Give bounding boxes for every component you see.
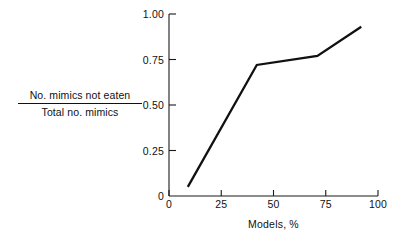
x-tick-label-0: 0 xyxy=(166,198,172,210)
y-tick-label-0: 0 xyxy=(158,190,164,202)
x-tick-label-4: 100 xyxy=(369,198,387,210)
y-tick-label-4: 1.00 xyxy=(143,8,164,20)
x-tick-label-2: 50 xyxy=(267,198,279,210)
y-axis-ticks xyxy=(169,14,176,151)
y-axis-tick-labels: 1.00 0.75 0.50 0.25 0 xyxy=(143,8,164,202)
x-axis-tick-labels: 0 25 50 75 100 xyxy=(166,198,387,210)
data-series-line xyxy=(188,27,361,187)
x-axis-ticks xyxy=(169,190,378,196)
y-tick-label-1: 0.25 xyxy=(143,145,164,157)
plot-area: 1.00 0.75 0.50 0.25 0 0 25 50 75 100 Mod… xyxy=(0,0,403,241)
x-tick-label-1: 25 xyxy=(215,198,227,210)
y-tick-label-2: 0.50 xyxy=(143,99,164,111)
y-tick-label-3: 0.75 xyxy=(143,54,164,66)
chart-figure: No. mimics not eaten Total no. mimics 1.… xyxy=(0,0,403,241)
x-axis-title: Models, % xyxy=(248,218,299,230)
x-tick-label-3: 75 xyxy=(320,198,332,210)
